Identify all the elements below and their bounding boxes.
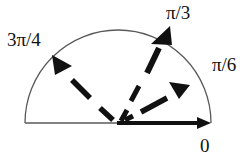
label-zero: 0 (200, 136, 210, 155)
label-three-pi-over-four: 3π/4 (7, 30, 41, 49)
arrow-pi-over-three-shaft (147, 48, 159, 73)
arrow-three-pi-over-four-dash-2 (72, 80, 90, 98)
semicircle-arc (25, 30, 211, 123)
label-pi-over-six: π/6 (212, 55, 236, 74)
arrow-pi-over-six (125, 82, 190, 120)
arrow-three-pi-over-four-dash-1 (100, 108, 113, 120)
arrow-three-pi-over-four (52, 55, 113, 120)
arrow-pi-over-three-arrowhead (151, 26, 172, 45)
arrow-pi-over-six-dash-2 (141, 98, 167, 112)
label-pi-over-three: π/3 (166, 3, 190, 22)
arrow-three-pi-over-four-arrowhead (52, 55, 72, 75)
arrow-pi-over-six-arrowhead (169, 82, 190, 99)
angle-diagram-canvas (0, 0, 250, 164)
arrow-pi-over-three-dash-2 (131, 86, 139, 101)
angle-diagram-figure: 3π/4 π/3 π/6 0 (0, 0, 250, 164)
zero-axis-arrowhead (197, 117, 211, 129)
